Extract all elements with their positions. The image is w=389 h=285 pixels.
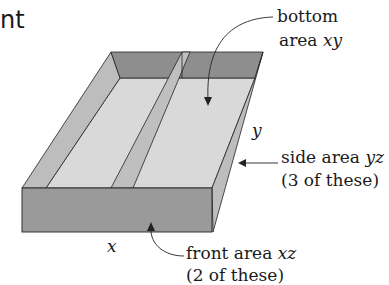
front-label-line1: front area xz — [186, 243, 297, 263]
side-arrowhead — [238, 159, 246, 167]
side-label-line1: side area yz — [281, 147, 385, 167]
box-diagram: nt bottom area xy y side area yz (3 of t… — [0, 0, 389, 285]
side-label-line2: (3 of these) — [281, 170, 379, 190]
bottom-label-line1: bottom — [277, 6, 338, 26]
front-label-line2: (2 of these) — [186, 265, 284, 285]
dim-y-label: y — [251, 120, 262, 140]
title-fragment: nt — [0, 6, 25, 34]
front-face — [22, 188, 212, 232]
bottom-label-line2: area xy — [279, 30, 342, 50]
dim-x-label: x — [107, 236, 117, 256]
